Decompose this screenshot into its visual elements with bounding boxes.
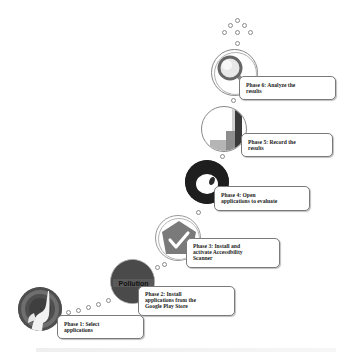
phase-4-line2: applications to evaluate	[221, 198, 305, 204]
phase-6-label-box: Phase 6: Analyze the results	[239, 76, 336, 100]
phase-2-label-box: Phase 2: Install applications from the G…	[138, 286, 235, 316]
connector-dot	[231, 98, 236, 103]
phase-3-line3: Scanner	[193, 255, 275, 261]
connector-dot	[220, 154, 225, 159]
connector-dot	[196, 210, 201, 215]
connector-dot	[155, 265, 160, 270]
phase-5-label-box: Phase 5: Record the results	[241, 133, 333, 157]
phase-6-line2: results	[246, 88, 331, 94]
phase-staircase-diagram: Phase 6: Analyze the results Phase 5: Re…	[0, 0, 353, 356]
phase-1-line2: applications	[64, 327, 139, 333]
phase-3-label-box: Phase 3: Install and activate Accessibil…	[186, 238, 280, 268]
connector-dot	[162, 262, 167, 267]
phase-1-label-box: Phase 1: Select applications	[57, 315, 144, 339]
phase-2-line3: Google Play Store	[145, 303, 230, 309]
phase-4-label-box: Phase 4: Open applications to evaluate	[214, 186, 310, 211]
phase-5-line2: results	[248, 145, 328, 151]
faint-caption-strip	[36, 348, 336, 352]
phase-1-icon-circle	[18, 287, 62, 331]
elephant-app-icon	[18, 287, 62, 331]
